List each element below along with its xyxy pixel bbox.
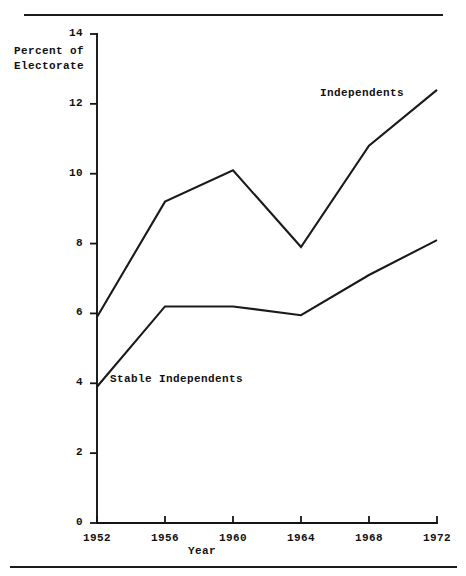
y-tick-label: 6 [39, 306, 83, 318]
y-axis-title-line: Electorate [14, 59, 84, 74]
y-axis-ticks [90, 34, 97, 523]
chart-figure: Percent ofElectorate Year Independents S… [0, 0, 466, 576]
x-tick-label: 1956 [137, 532, 193, 544]
y-tick-label: 10 [39, 167, 83, 179]
chart-axes [90, 34, 437, 523]
series-line-independents [97, 90, 437, 317]
x-tick-label: 1964 [273, 532, 329, 544]
y-tick-label: 12 [39, 97, 83, 109]
y-axis-title: Percent ofElectorate [14, 44, 84, 74]
x-axis-title: Year [188, 545, 216, 557]
x-axis-ticks [97, 516, 437, 523]
series-line-stable-independents [97, 240, 437, 387]
y-tick-label: 4 [39, 376, 83, 388]
x-tick-label: 1952 [69, 532, 125, 544]
x-tick-label: 1972 [409, 532, 465, 544]
chart-series-group [97, 90, 437, 387]
series-label-stable-independents: Stable Independents [110, 373, 243, 385]
y-tick-label: 14 [39, 27, 83, 39]
y-tick-label: 8 [39, 237, 83, 249]
y-tick-label: 0 [39, 516, 83, 528]
x-tick-label: 1968 [341, 532, 397, 544]
y-axis-title-line: Percent of [14, 44, 84, 59]
y-tick-label: 2 [39, 446, 83, 458]
series-label-independents: Independents [320, 87, 404, 99]
x-tick-label: 1960 [205, 532, 261, 544]
